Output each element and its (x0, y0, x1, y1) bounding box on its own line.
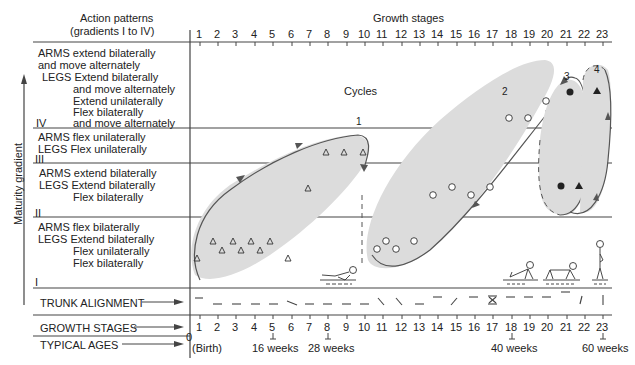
stage-label: 18 (505, 28, 517, 40)
stage-label: 14 (431, 321, 443, 333)
stage-label: 13 (413, 321, 425, 333)
maturity-arrow-head (21, 74, 27, 84)
stage-label: 4 (251, 321, 257, 333)
crawling-figure-icon (320, 267, 357, 285)
gradient-i-line: Flex unilaterally (73, 245, 149, 257)
gradient-ii-numeral: II (35, 207, 41, 219)
stage-label: 16 (468, 28, 480, 40)
age-28-weeks: 28 weeks (308, 342, 354, 354)
stage-label: 18 (505, 321, 517, 333)
stage-label: 12 (395, 321, 407, 333)
cycle-2-region (367, 60, 555, 268)
age-birth: (Birth) (192, 342, 222, 354)
stage-label: 6 (288, 28, 294, 40)
gradient-iv-numeral: IV (36, 117, 46, 129)
stage-label: 15 (450, 28, 462, 40)
stage-label: 8 (324, 321, 330, 333)
stage-label: 7 (306, 321, 312, 333)
trunk-arrow-head (174, 299, 184, 305)
stage-label: 11 (376, 28, 387, 40)
stage-label: 20 (541, 28, 553, 40)
stage-label: 17 (486, 28, 498, 40)
stage-label: 17 (486, 321, 498, 333)
stage-label: 10 (358, 321, 370, 333)
stage-label: 8 (324, 28, 330, 40)
stage-label: 9 (343, 321, 349, 333)
age-16-weeks: 16 weeks (252, 342, 298, 354)
growth-stages-title: Growth stages (373, 12, 444, 24)
action-patterns-subtitle: (gradients I to IV) (70, 25, 154, 37)
gradient-i-line: LEGS Extend bilaterally (38, 233, 154, 245)
stage-label: 19 (523, 321, 535, 333)
stage-label: 16 (468, 321, 480, 333)
gradient-ii-line: LEGS Extend bilaterally (39, 179, 155, 191)
cycle-label-4: 4 (594, 64, 600, 75)
stage-label: 7 (306, 28, 312, 40)
stage-label: 4 (251, 28, 257, 40)
gradient-iv-line: LEGS Extend bilaterally (42, 71, 158, 83)
typical-ages-label: TYPICAL AGES (40, 339, 118, 351)
stage-label: 21 (560, 28, 572, 40)
gradient-i-line: ARMS flex bilaterally (38, 221, 139, 233)
stage-label: 23 (596, 321, 608, 333)
y-axis-label: Maturity gradient (12, 134, 24, 234)
cycle-label-2: 2 (502, 86, 508, 97)
cycle-label-1: 1 (356, 116, 362, 127)
stage-label: 20 (541, 321, 553, 333)
stage-label: 22 (578, 321, 590, 333)
ages-arrow-head (174, 341, 184, 347)
stage-label: 12 (395, 28, 407, 40)
gradient-iv-line: and move alternately (38, 59, 140, 71)
stage-label: 5 (269, 321, 275, 333)
gradient-ii-line: Flex bilaterally (73, 191, 143, 203)
gradient-i-numeral: I (35, 276, 38, 288)
stage-label: 11 (376, 321, 387, 333)
gradient-ii-line: ARMS extend bilaterally (39, 167, 156, 179)
hands-knees-figure-icon (543, 263, 580, 285)
age-40-weeks: 40 weeks (491, 342, 537, 354)
gradient-iv-line: ARMS extend bilaterally (38, 47, 155, 59)
action-patterns-title: Action patterns (80, 12, 153, 24)
stage-label: 6 (288, 321, 294, 333)
stage-label: 1 (196, 321, 202, 333)
stage-label: 5 (269, 28, 275, 40)
growth-arrow-head (174, 324, 184, 330)
cycle-label-3: 3 (564, 71, 570, 82)
stage-label: 19 (523, 28, 535, 40)
cycle-1-region (191, 135, 369, 279)
trunk-alignment-label: TRUNK ALIGNMENT (40, 297, 145, 309)
stage-label: 9 (343, 28, 349, 40)
gradient-i-line: Flex bilaterally (73, 257, 143, 269)
stage-label: 13 (413, 28, 425, 40)
creeping-figure-icon (503, 262, 538, 285)
stage-label: 1 (196, 28, 202, 40)
cycles-title: Cycles (344, 85, 377, 97)
gradient-iv-line: and move alternately (73, 83, 175, 95)
stage-label: 3 (232, 28, 238, 40)
stage-label: 22 (578, 28, 590, 40)
stage-label: 2 (214, 28, 220, 40)
cycle-4-region (580, 65, 611, 213)
gradient-iii-line: LEGS Flex unilaterally (38, 143, 147, 155)
stage-label: 10 (358, 28, 370, 40)
age-60-weeks: 60 weeks (582, 342, 628, 354)
stage-label: 2 (214, 321, 220, 333)
stage-label: 23 (596, 28, 608, 40)
gradient-iii-numeral: III (35, 153, 44, 165)
stage-label: 15 (450, 321, 462, 333)
growth-stages-row-label: GROWTH STAGES (40, 322, 137, 334)
standing-figure-icon (592, 241, 608, 285)
stage-label: 21 (560, 321, 572, 333)
gradient-iv-line: and move alternately (73, 117, 175, 129)
stage-label: 3 (232, 321, 238, 333)
gradient-iii-line: ARMS flex unilaterally (38, 131, 146, 143)
trunk-alignment-marks (195, 292, 603, 305)
stage-label: 14 (431, 28, 443, 40)
